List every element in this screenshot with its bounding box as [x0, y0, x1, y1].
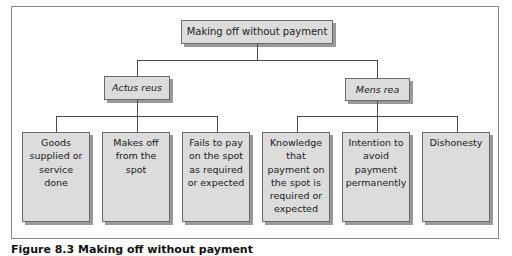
leaf-label-fails-to-pay: Fails to pay on the spot as required or …	[188, 136, 245, 189]
connector-to-dishonesty	[457, 116, 458, 132]
connector-to-actus-reus	[137, 60, 138, 76]
connector-actus-reus-horizontal	[56, 116, 218, 117]
branch-label-actus-reus: Actus reus	[112, 81, 162, 94]
root-node: Making off without payment	[181, 20, 333, 44]
leaf-node-goods-supplied: Goods supplied or service done	[22, 132, 90, 222]
leaf-label-intention: Intention to avoid payment permanently	[346, 136, 407, 189]
connector-to-goods-supplied	[56, 116, 57, 132]
leaf-node-makes-off: Makes off from the spot	[102, 132, 170, 222]
leaf-label-makes-off: Makes off from the spot	[113, 136, 158, 176]
branch-label-mens-rea: Mens rea	[356, 83, 400, 96]
connector-branch-horizontal	[137, 60, 378, 61]
root-node-label: Making off without payment	[187, 25, 328, 38]
leaf-label-goods-supplied: Goods supplied or service done	[30, 136, 83, 189]
connector-to-fails-to-pay	[217, 116, 218, 132]
leaf-node-fails-to-pay: Fails to pay on the spot as required or …	[182, 132, 250, 222]
connector-root-down	[257, 44, 258, 60]
connector-to-mens-rea	[377, 60, 378, 78]
leaf-node-dishonesty: Dishonesty	[422, 132, 490, 222]
leaf-node-knowledge: Knowledge that payment on the spot is re…	[262, 132, 330, 222]
figure-caption: Figure 8.3 Making off without payment	[11, 243, 253, 256]
branch-node-actus-reus: Actus reus	[104, 76, 170, 100]
leaf-label-knowledge: Knowledge that payment on the spot is re…	[267, 136, 324, 216]
branch-node-mens-rea: Mens rea	[345, 78, 410, 101]
connector-mens-rea-horizontal	[297, 116, 458, 117]
leaf-label-dishonesty: Dishonesty	[430, 136, 483, 149]
connector-to-knowledge	[297, 116, 298, 132]
leaf-node-intention: Intention to avoid payment permanently	[342, 132, 410, 222]
